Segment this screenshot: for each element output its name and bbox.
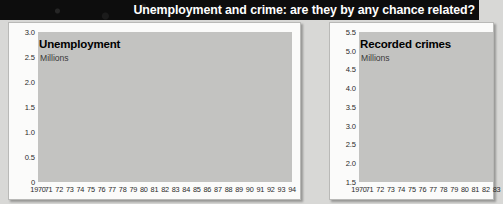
y-tick-label: 4.5	[332, 65, 356, 74]
y-tick-label: 4.0	[332, 84, 356, 93]
plot-area-unemployment	[38, 32, 292, 182]
chart-panel-unemployment: Unemployment Millions 3.02.52.01.51.00.5…	[8, 22, 301, 200]
y-tick-label: 3.5	[332, 103, 356, 112]
chart-subtitle-unemployment: Millions	[40, 53, 69, 63]
chart-title-unemployment: Unemployment	[39, 38, 120, 50]
chart-panel-recorded-crimes: Recorded crimes Millions 5.55.04.54.03.5…	[329, 22, 494, 200]
chart-subtitle-recorded-crimes: Millions	[361, 53, 390, 63]
y-tick-label: 5.5	[332, 28, 356, 37]
y-tick-label: 2.5	[11, 53, 35, 62]
y-tick-label: 1.0	[11, 128, 35, 137]
y-tick-label: 0.5	[11, 153, 35, 162]
x-tick-label: 83	[490, 185, 503, 194]
y-tick-label: 2.5	[332, 140, 356, 149]
chart-title-recorded-crimes: Recorded crimes	[360, 38, 451, 50]
headline-bar: Unemployment and crime: are they by any …	[0, 0, 479, 20]
y-tick-label: 5.0	[332, 47, 356, 56]
headline-title: Unemployment and crime: are they by any …	[133, 1, 475, 19]
x-tick-label: 94	[286, 185, 299, 194]
plot-background-unemployment	[38, 32, 292, 182]
y-tick-label: 3.0	[11, 28, 35, 37]
y-tick-label: 2.0	[332, 159, 356, 168]
y-tick-label: 3.0	[332, 122, 356, 131]
y-tick-label: 1.5	[11, 103, 35, 112]
y-tick-label: 2.0	[11, 78, 35, 87]
